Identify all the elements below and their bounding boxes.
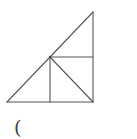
mid-point-dot bbox=[49, 56, 51, 58]
inner-diagonal-line bbox=[50, 57, 93, 102]
answer-paren: ( bbox=[14, 118, 21, 137]
